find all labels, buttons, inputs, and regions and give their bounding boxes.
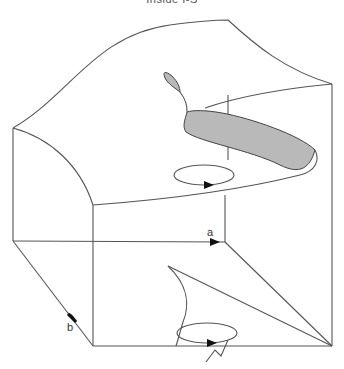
fold-region	[184, 111, 315, 170]
surface-back-edge	[205, 84, 332, 108]
upper-cycle-arrow-icon	[204, 181, 214, 189]
axis-b-label: b	[67, 321, 73, 333]
upper-surface-top-edge	[13, 20, 332, 128]
fold-tip	[164, 73, 180, 93]
cusp-projection-edge	[168, 266, 332, 346]
axis-a-arrow-icon	[210, 238, 220, 246]
axis-b-line	[13, 241, 93, 346]
diagonal-edge	[225, 242, 332, 346]
axis-a-label: a	[207, 226, 213, 238]
left-face-curve	[13, 128, 93, 205]
fold-stem	[180, 92, 187, 112]
cusp-catastrophe-diagram	[0, 0, 344, 369]
axis-a-line	[13, 241, 225, 242]
